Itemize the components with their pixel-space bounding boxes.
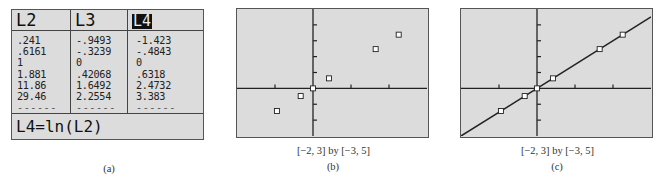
data-point-marker: [522, 94, 527, 99]
caption-a: (a): [94, 163, 124, 174]
cell: .6161: [17, 46, 70, 57]
column-header: L4: [128, 10, 203, 31]
caption-b: (b): [318, 161, 348, 172]
column-header-label: L2: [16, 10, 36, 30]
data-point-marker: [597, 47, 602, 52]
window-range-c: [−2, 3] by [−3, 5]: [510, 145, 605, 156]
empty-cell: ------: [136, 102, 203, 113]
plot-area: [461, 9, 651, 136]
column-header: L3: [71, 10, 127, 31]
cell: -.4843: [136, 46, 203, 57]
scatter-plot-c: [460, 8, 653, 138]
data-point-marker: [326, 76, 331, 81]
cell: 11.86: [17, 80, 70, 91]
plot-area: [237, 9, 427, 136]
list-column-l4: L4 -1.423 -.4843 0 .6318 2.4732 3.383 --…: [128, 10, 203, 113]
empty-cell: ------: [17, 102, 70, 113]
column-header-label: L3: [75, 10, 95, 30]
column-values: .241 .6161 1 1.881 11.86 29.46 ------: [12, 31, 70, 113]
caption-c: (c): [542, 161, 572, 172]
data-point-marker: [535, 86, 540, 91]
cell: -1.423: [136, 35, 203, 46]
cell: 2.4732: [136, 80, 203, 91]
data-point-marker: [274, 108, 279, 113]
cell: 3.383: [136, 91, 203, 102]
cell: 0: [76, 57, 127, 68]
column-values: -1.423 -.4843 0 .6318 2.4732 3.383 -----…: [128, 31, 203, 113]
list-column-l2: L2 .241 .6161 1 1.881 11.86 29.46 ------: [12, 10, 71, 113]
data-point-marker: [311, 86, 316, 91]
cell: -.9493: [76, 35, 127, 46]
column-header-label-highlighted: L4: [132, 14, 152, 29]
scatter-plot-b: [236, 8, 429, 138]
data-point-marker: [298, 94, 303, 99]
cell: -.3239: [76, 46, 127, 57]
list-editor-screen: L2 .241 .6161 1 1.881 11.86 29.46 ------…: [11, 9, 204, 140]
cell: 29.46: [17, 91, 70, 102]
column-header: L2: [12, 10, 70, 31]
cell: .241: [17, 35, 70, 46]
list-column-l3: L3 -.9493 -.3239 0 .42068 1.6492 2.2554 …: [71, 10, 128, 113]
empty-cell: ------: [76, 102, 127, 113]
data-point-marker: [498, 108, 503, 113]
cell: .42068: [76, 69, 127, 80]
cell: 0: [136, 57, 203, 68]
data-point-marker: [373, 47, 378, 52]
cell: 2.2554: [76, 91, 127, 102]
cell: 1.6492: [76, 80, 127, 91]
data-point-marker: [620, 32, 625, 37]
data-point-marker: [396, 32, 401, 37]
cell: 1.881: [17, 69, 70, 80]
window-range-b: [−2, 3] by [−3, 5]: [286, 145, 381, 156]
list-formula: L4=ln(L2): [12, 113, 203, 140]
data-point-marker: [550, 76, 555, 81]
cell: 1: [17, 57, 70, 68]
cell: .6318: [136, 69, 203, 80]
column-values: -.9493 -.3239 0 .42068 1.6492 2.2554 ---…: [71, 31, 127, 113]
